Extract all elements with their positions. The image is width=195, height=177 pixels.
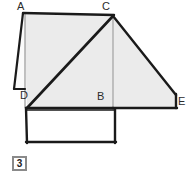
open-rectangle-bottom — [26, 110, 115, 142]
figure-number-label: 3 — [17, 159, 23, 169]
geometry-figure: A C D B E 3 — [0, 0, 195, 177]
vertex-label-b: B — [97, 91, 104, 102]
vertex-label-d: D — [20, 90, 28, 101]
vertex-label-e: E — [178, 96, 185, 107]
vertex-label-a: A — [17, 1, 24, 12]
figure-drawing — [0, 0, 195, 177]
figure-number-badge: 3 — [12, 156, 27, 171]
vertex-label-c: C — [102, 1, 110, 12]
segment-rect-left — [26, 108, 27, 143]
